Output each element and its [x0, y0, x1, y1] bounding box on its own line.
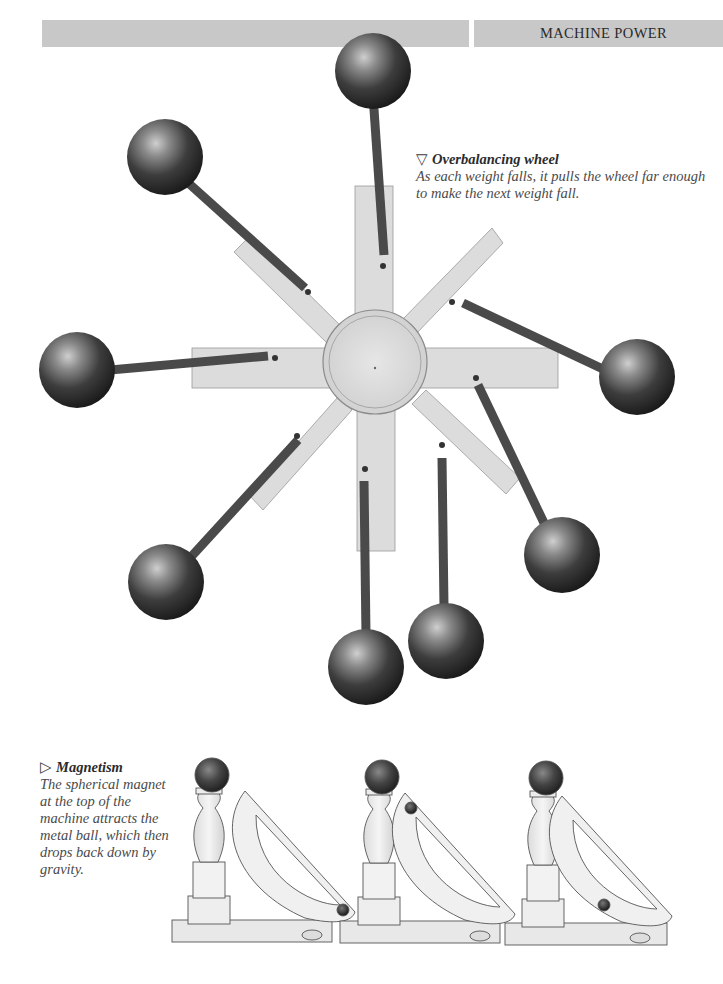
- magnet-machine-3: [505, 761, 672, 945]
- wheel-hub: [323, 310, 427, 414]
- caption-title: ▷Magnetism: [40, 759, 180, 776]
- caption-title: ▽Overbalancing wheel: [416, 151, 716, 168]
- weight-ball: [408, 603, 484, 679]
- weight-ball: [128, 544, 204, 620]
- magnet-machine-2: [340, 760, 515, 943]
- weight-ball: [39, 332, 115, 408]
- down-triangle-icon: ▽: [416, 151, 428, 167]
- magnet-machine-1: [172, 758, 355, 942]
- weight-ball: [524, 517, 600, 593]
- caption-magnetism: ▷Magnetism The spherical magnet at the t…: [40, 759, 180, 878]
- weight-ball: [127, 119, 203, 195]
- caption-text: The spherical magnet at the top of the m…: [40, 776, 169, 877]
- weight-ball: [599, 339, 675, 415]
- caption-overbalancing-wheel: ▽Overbalancing wheel As each weight fall…: [416, 151, 716, 202]
- magnetism-illustration: [172, 758, 672, 945]
- right-triangle-icon: ▷: [40, 759, 52, 775]
- weight-ball: [335, 33, 411, 109]
- caption-text: As each weight falls, it pulls the wheel…: [416, 168, 705, 201]
- weight-ball: [328, 629, 404, 705]
